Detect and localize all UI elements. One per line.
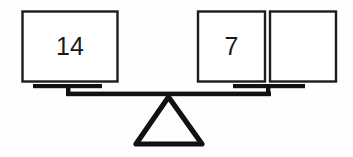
- left-box-label: 14: [56, 32, 84, 60]
- balance-scale-diagram: 14 7: [0, 0, 353, 157]
- left-pan-bar: [33, 84, 102, 88]
- right-pan-bar: [233, 84, 305, 88]
- right-box-empty[interactable]: [270, 12, 336, 82]
- right-box-7-label: 7: [225, 32, 239, 60]
- right-box-empty-outline: [270, 12, 336, 82]
- fulcrum-triangle: [136, 97, 202, 144]
- right-box-7[interactable]: 7: [198, 12, 265, 82]
- left-box-14[interactable]: 14: [23, 12, 118, 82]
